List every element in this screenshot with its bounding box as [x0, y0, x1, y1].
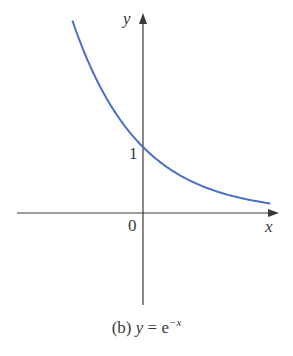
curve-exp-neg-x — [72, 21, 270, 204]
tick-label-one: 1 — [129, 144, 138, 164]
figure-caption: (b) y = e−x — [0, 316, 293, 338]
plot-area — [0, 0, 293, 356]
x-axis-label: x — [265, 217, 273, 237]
y-axis-arrow-icon — [139, 13, 147, 24]
x-axis-arrow-icon — [268, 209, 279, 217]
y-axis-label: y — [123, 9, 131, 29]
tick-label-origin: 0 — [128, 216, 137, 236]
